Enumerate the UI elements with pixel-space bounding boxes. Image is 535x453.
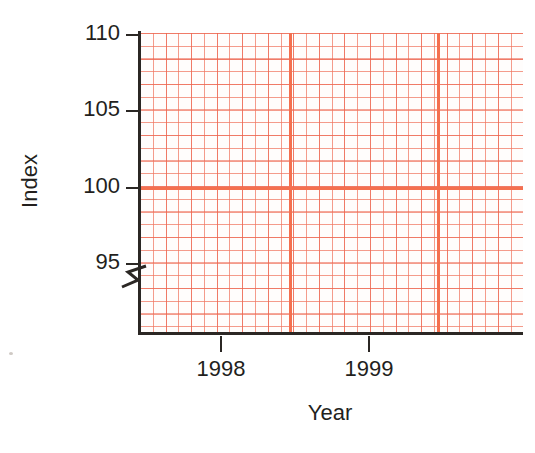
y-tick-label-100: 100 <box>52 173 120 199</box>
y-tick-label-110: 110 <box>52 20 120 46</box>
chart-figure: 110 105 100 95 1998 1999 Index Year <box>0 0 535 453</box>
plot-area <box>140 33 523 333</box>
y-tick-mark-100 <box>126 187 139 189</box>
x-tick-mark-1998 <box>220 336 222 352</box>
y-axis-title: Index <box>17 121 43 241</box>
axis-break-zigzag-icon <box>120 262 166 302</box>
x-tick-label-1998: 1998 <box>176 356 266 382</box>
x-axis-spine <box>138 332 523 335</box>
major-gridline-vertical-1 <box>289 33 292 333</box>
major-gridline-vertical-2 <box>437 33 440 333</box>
y-tick-label-95: 95 <box>52 249 120 275</box>
sub-major-gridlines <box>140 33 523 333</box>
y-tick-mark-105 <box>126 110 139 112</box>
scan-artifact-speck <box>9 352 13 355</box>
x-tick-mark-1999 <box>368 336 370 352</box>
x-axis-title: Year <box>185 400 475 426</box>
y-tick-label-105: 105 <box>52 96 120 122</box>
y-tick-mark-110 <box>126 34 139 36</box>
major-gridline-horizontal-100 <box>140 187 523 190</box>
x-tick-label-1999: 1999 <box>324 356 414 382</box>
